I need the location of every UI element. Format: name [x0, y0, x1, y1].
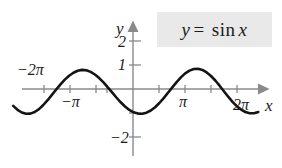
sine-curve: [13, 69, 258, 114]
y-tick-label-1: 1: [118, 57, 126, 73]
figure-sine-graph: y=sinx y x −2π −π π 2π 2 1 −2: [0, 0, 282, 168]
equation-argument: x: [235, 19, 247, 41]
x-tick-label-neg-2pi: −2π: [17, 62, 44, 78]
x-tick-label-neg-pi: −π: [61, 94, 80, 110]
equation-label: y=sinx: [157, 12, 272, 47]
x-axis-arrowhead: [258, 84, 270, 95]
y-axis-arrowhead: [128, 21, 139, 33]
equation-operator: =: [191, 19, 208, 41]
y-tick-label-2: 2: [118, 34, 126, 50]
x-axis-label: x: [265, 97, 273, 114]
x-tick-label-pi: π: [179, 94, 187, 110]
equation-function: sin: [208, 19, 236, 41]
equation-lhs: y: [182, 19, 191, 41]
x-tick-label-2pi: 2π: [233, 97, 249, 113]
y-tick-label-neg-2: −2: [110, 130, 129, 146]
